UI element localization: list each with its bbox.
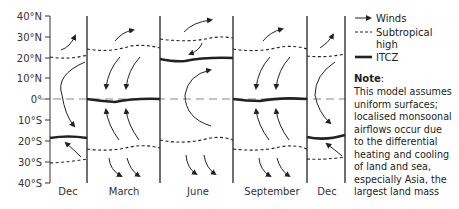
wind-arrow: [276, 57, 290, 88]
sth-june-s: [160, 137, 233, 142]
wind-arrow: [126, 110, 139, 140]
month-label-march: March: [109, 186, 139, 197]
wind-arrow: [320, 35, 333, 48]
lat-label-30n: 30°N: [17, 32, 42, 43]
note-line: to the differential: [354, 136, 437, 147]
note-line: heating and cooling: [354, 149, 449, 160]
itcz-september: [233, 98, 307, 101]
wind-arrow: [256, 110, 269, 140]
wind-arrow: [276, 110, 289, 140]
wind-arrow: [327, 144, 342, 156]
itcz-lines: [50, 58, 345, 139]
legend-winds-label: Winds: [376, 13, 406, 24]
itcz-dec-right: [307, 135, 345, 139]
wind-arrow: [263, 29, 282, 41]
itcz-dec-left: [50, 137, 87, 139]
wind-arrow: [115, 30, 133, 41]
wind-arrow: [61, 36, 75, 50]
note-line: of land and sea,: [354, 161, 431, 172]
sth-dec-right-s: [307, 157, 345, 159]
legend-subtropical-label: Subtropical: [376, 27, 433, 38]
legend-subtropical-label-2: high: [376, 39, 398, 50]
wind-arrow: [204, 155, 215, 174]
wind-arrow: [277, 158, 289, 176]
note-line: This model assumes: [353, 86, 452, 97]
note-line: localised monsoonal: [354, 111, 452, 122]
atmospheric-circulation-diagram: 40°N 30°N 20°N 10°N 0° 10°S 20°S 30°S 40…: [0, 0, 459, 209]
note-line: uniform surfaces;: [354, 99, 438, 110]
legend-symbols: [355, 18, 372, 57]
wind-arrow: [66, 143, 81, 157]
lat-label-40s: 40°S: [18, 178, 42, 189]
month-label-june: June: [186, 186, 209, 197]
wind-arrow: [106, 57, 120, 88]
month-label-september: September: [244, 186, 300, 197]
wind-arrow: [184, 20, 211, 32]
sth-september-s: [233, 146, 307, 150]
sth-dec-s: [50, 159, 87, 163]
sth-september-n: [233, 46, 307, 50]
lat-label-20s: 20°S: [18, 136, 42, 147]
wind-arrow: [259, 158, 270, 176]
note-line: especially Asia, the: [354, 174, 447, 185]
wind-arrow: [127, 158, 139, 176]
wind-arrow: [126, 57, 140, 88]
sth-dec-n: [50, 55, 87, 58]
sth-june-n: [160, 37, 233, 41]
lat-label-10n: 10°N: [17, 73, 42, 84]
itcz-march: [87, 99, 160, 102]
lat-label-40n: 40°N: [17, 11, 42, 22]
month-label-dec-right: Dec: [317, 186, 336, 197]
wind-arrow: [106, 110, 119, 140]
lat-label-10s: 10°S: [18, 115, 42, 126]
wind-arrow: [315, 62, 335, 123]
legend-itcz-label: ITCZ: [376, 52, 398, 63]
sth-march-n: [87, 45, 160, 50]
lat-label-20n: 20°N: [17, 53, 42, 64]
sth-march-s: [87, 146, 160, 150]
month-label-dec: Dec: [58, 186, 77, 197]
wind-arrow: [190, 43, 202, 54]
note-line: airflows occur due: [354, 124, 442, 135]
wind-arrow: [256, 57, 270, 88]
wind-arrow: [185, 70, 211, 126]
wind-arrow: [186, 155, 196, 174]
wind-arrow: [61, 62, 85, 126]
lat-label-30s: 30°S: [18, 157, 42, 168]
note-title: Note:: [354, 73, 384, 84]
note-line: largest land mass: [354, 186, 439, 197]
wind-arrow: [109, 158, 121, 176]
sth-dec-right-n: [307, 54, 345, 57]
itcz-june: [160, 58, 233, 61]
